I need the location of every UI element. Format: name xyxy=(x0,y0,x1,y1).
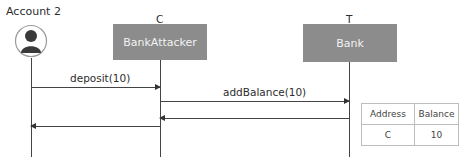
lifeline-c xyxy=(160,60,161,157)
return-arrow-c-to-account xyxy=(31,126,160,127)
lifeline-account-2 xyxy=(31,58,32,157)
actor-title-account-2: Account 2 xyxy=(6,5,61,18)
table-header-address: Address xyxy=(362,104,415,125)
table-header-balance: Balance xyxy=(415,104,459,125)
message-arrow-deposit xyxy=(31,87,160,88)
table-header-row: Address Balance xyxy=(362,104,459,125)
actor-box-bank: Bank xyxy=(303,24,397,62)
user-icon xyxy=(14,24,48,58)
message-arrow-addbalance xyxy=(160,101,349,102)
return-arrow-t-to-c xyxy=(160,118,349,119)
lifeline-t xyxy=(349,62,350,157)
message-label-deposit: deposit(10) xyxy=(70,72,130,84)
table-cell-address: C xyxy=(362,125,415,146)
actor-box-bankattacker: BankAttacker xyxy=(113,24,207,60)
message-label-addbalance: addBalance(10) xyxy=(223,86,306,98)
table-cell-balance: 10 xyxy=(415,125,459,146)
table-row: C 10 xyxy=(362,125,459,146)
balance-table: Address Balance C 10 xyxy=(361,103,459,146)
